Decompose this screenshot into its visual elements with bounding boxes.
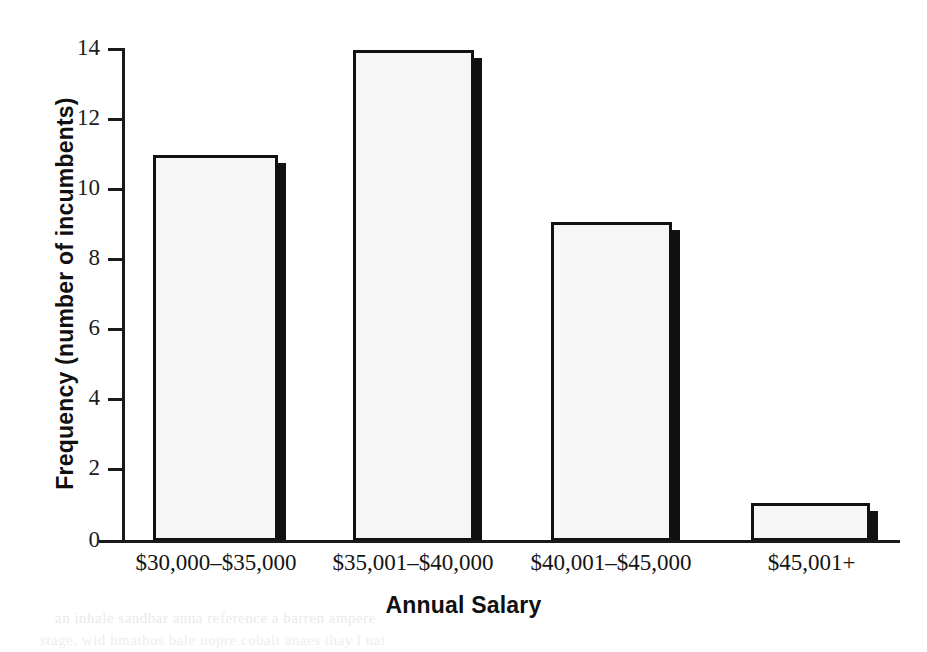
y-tick-2	[108, 468, 123, 471]
y-tick-4	[108, 398, 123, 401]
x-tick-label-2: $35,001–$40,000	[322, 550, 504, 576]
bar-2	[353, 50, 474, 541]
y-axis-title: Frequency (number of incumbents)	[52, 14, 79, 574]
x-axis-line	[99, 540, 900, 543]
x-axis-title: Annual Salary	[0, 592, 927, 619]
y-tick-10	[108, 188, 123, 191]
x-tick-label-3: $40,001–$45,000	[520, 550, 702, 576]
bar-shadow-3	[671, 230, 680, 541]
y-tick-12	[108, 118, 123, 121]
bar-shadow-2	[473, 58, 482, 541]
bar-1	[153, 155, 278, 541]
x-tick-label-4: $45,001+	[724, 550, 899, 576]
bar-3	[551, 222, 672, 541]
chart-page: an inhale sandbar anna reference a barre…	[0, 0, 927, 652]
y-tick-8	[108, 258, 123, 261]
y-tick-6	[108, 328, 123, 331]
bar-shadow-1	[277, 163, 286, 541]
bar-4	[751, 503, 870, 541]
y-tick-14	[108, 48, 123, 51]
bar-chart: 14 12 10 8 6 4 2 0	[0, 0, 927, 652]
x-tick-label-1: $30,000–$35,000	[125, 550, 307, 576]
bar-shadow-4	[869, 511, 878, 541]
